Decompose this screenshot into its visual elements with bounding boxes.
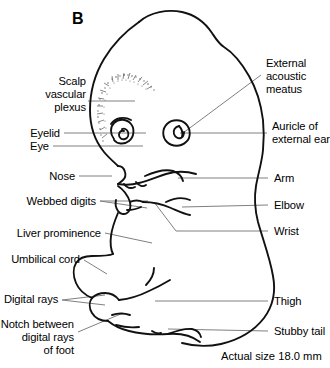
leader-umbilical-cord xyxy=(84,260,107,274)
scalp-vascular-plexus-stipple xyxy=(97,73,155,142)
outline-foot-notch-3 xyxy=(152,331,161,333)
label-scalp-vascular-plexus: Scalp vascular plexus xyxy=(4,75,86,115)
label-auricle-of-external-ear: Auricle of external ear xyxy=(272,120,330,146)
label-external-acoustic-meatus: External acoustic meatus xyxy=(266,57,328,97)
label-elbow: Elbow xyxy=(274,199,324,212)
scale-note: Actual size 18.0 mm xyxy=(221,350,322,362)
label-umbilical-cord: Umbilical cord xyxy=(4,253,80,266)
label-digital-rays: Digital rays xyxy=(4,293,58,306)
panel-letter: B xyxy=(72,10,84,28)
outline-ear-helix xyxy=(179,126,182,137)
outline-thorax-liver xyxy=(111,213,118,254)
outline-arm-underside xyxy=(143,202,190,215)
outline-webbing-1 xyxy=(130,201,143,203)
leader-notch-digital-rays-foot xyxy=(78,313,123,332)
label-eyelid: Eyelid xyxy=(4,127,60,140)
label-thigh: Thigh xyxy=(274,295,324,308)
label-liver-prominence: Liver prominence xyxy=(4,227,101,240)
label-wrist: Wrist xyxy=(274,225,324,238)
outline-nose xyxy=(118,166,125,184)
outline-thigh-top xyxy=(119,280,170,300)
leader-external-acoustic-meatus xyxy=(183,75,261,133)
outline-foot-front xyxy=(90,298,108,321)
label-arm: Arm xyxy=(274,172,324,185)
outline-elbow-crease xyxy=(166,198,190,202)
outline-foot-notch-1 xyxy=(112,314,130,316)
outline-eye-spiral xyxy=(119,129,128,140)
outline-webbing-2 xyxy=(127,207,141,210)
figure-panel: B Scalp vascular plexus Eyelid Eye Nose … xyxy=(0,0,330,368)
label-notch-between-digital-rays-of-foot: Notch between digital rays of foot xyxy=(0,318,74,358)
label-eye: Eye xyxy=(4,140,49,153)
label-stubby-tail: Stubby tail xyxy=(274,325,330,338)
label-nose: Nose xyxy=(4,170,75,183)
leader-digital-rays xyxy=(62,295,105,300)
label-webbed-digits: Webbed digits xyxy=(4,195,96,208)
leader-digital-rays-2 xyxy=(62,300,105,305)
outline-knee-crease xyxy=(146,268,154,285)
outline-head-front xyxy=(90,22,139,166)
